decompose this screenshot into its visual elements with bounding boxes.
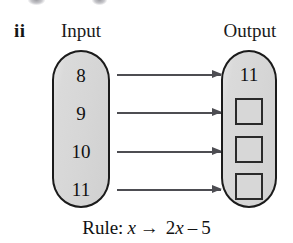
rule-expression-variable: x xyxy=(175,217,183,238)
input-column-heading: Input xyxy=(52,20,110,42)
function-machine-diagram: ii Input Output 8 9 10 11 11 Rule:x→2x–5 xyxy=(0,0,293,243)
arrow-shaft xyxy=(117,151,221,153)
input-capsule: 8 9 10 11 xyxy=(52,50,110,208)
rule-arrow-icon: → xyxy=(140,217,159,238)
rule-text: Rule:x→2x–5 xyxy=(0,216,293,240)
rule-coefficient: 2 xyxy=(166,217,176,238)
mapping-arrow-icon xyxy=(117,70,221,79)
arrow-shaft xyxy=(117,189,221,191)
arrow-shaft xyxy=(117,74,221,76)
mapping-arrow-icon xyxy=(117,108,221,117)
arrow-head xyxy=(212,70,222,78)
item-number-label: ii xyxy=(14,21,26,41)
mapping-arrow-icon xyxy=(117,147,221,156)
output-capsule: 11 xyxy=(221,50,277,208)
output-answer-box[interactable] xyxy=(235,136,263,163)
arrow-head xyxy=(212,147,222,155)
rule-input-variable: x xyxy=(127,217,135,238)
output-value: 11 xyxy=(223,65,275,85)
input-value: 8 xyxy=(54,66,108,86)
input-value: 11 xyxy=(54,180,108,200)
arrow-head xyxy=(212,108,222,116)
arrow-shaft xyxy=(117,112,221,114)
input-value: 9 xyxy=(54,104,108,124)
cut-off-text-remnant xyxy=(28,0,45,5)
rule-prefix: Rule: xyxy=(82,217,123,238)
output-answer-box[interactable] xyxy=(235,173,263,200)
output-column-heading: Output xyxy=(210,20,290,42)
cut-off-text-remnant xyxy=(92,0,107,5)
output-answer-box[interactable] xyxy=(235,98,263,125)
rule-operator: – xyxy=(188,217,198,238)
rule-constant: 5 xyxy=(201,217,211,238)
input-value: 10 xyxy=(54,142,108,162)
arrow-head xyxy=(212,185,222,193)
mapping-arrow-icon xyxy=(117,185,221,194)
